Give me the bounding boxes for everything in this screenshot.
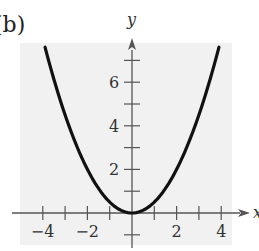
x-tick-label: 2	[172, 222, 182, 241]
panel-label: (b)	[0, 12, 25, 37]
plot-area: −4−224246 x y	[0, 0, 259, 251]
figure: (b) −4−224246 x y	[0, 0, 259, 251]
y-tick-label: 4	[109, 117, 119, 136]
y-tick-label: 6	[109, 73, 119, 92]
y-tick-label: 2	[109, 160, 119, 179]
x-tick-label: 4	[216, 222, 226, 241]
x-tick-label: −4	[31, 222, 55, 241]
x-tick-label: −2	[75, 222, 99, 241]
x-axis-label: x	[253, 203, 259, 222]
y-axis-label: y	[126, 10, 137, 29]
